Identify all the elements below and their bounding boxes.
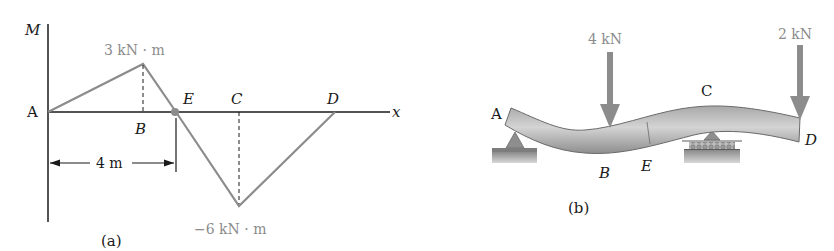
deflected-beam xyxy=(505,106,800,154)
min-moment-label: −6 kN · m xyxy=(194,221,266,237)
load-2-label: 2 kN xyxy=(778,26,812,42)
point-e-label: E xyxy=(182,90,194,108)
load-arrow-4kn-icon xyxy=(600,52,620,128)
caption-a: (a) xyxy=(101,232,122,250)
point-b-label: B xyxy=(134,120,146,138)
beam-point-e-label: E xyxy=(640,157,652,175)
point-a-label: A xyxy=(26,103,38,121)
dimension-arrow-right-icon xyxy=(164,160,174,167)
max-moment-label: 3 kN · m xyxy=(104,42,165,58)
point-c-label: C xyxy=(231,90,243,108)
load-1-label: 4 kN xyxy=(588,31,622,47)
dimension-arrow-left-icon xyxy=(50,160,60,167)
point-d-label: D xyxy=(326,90,339,108)
load-arrow-2kn-icon xyxy=(790,45,810,120)
m-axis-label: M xyxy=(24,21,41,39)
inflection-point-e xyxy=(171,108,179,116)
moment-curve xyxy=(48,64,335,206)
beam-point-d-label: D xyxy=(804,131,817,149)
beam-diagram: 4 kN 2 kN A B E C D (b) xyxy=(490,26,817,217)
dimension-label: 4 m xyxy=(96,155,123,171)
beam-point-a-label: A xyxy=(490,105,502,123)
caption-b: (b) xyxy=(568,199,589,217)
x-axis-label: x xyxy=(392,103,401,121)
beam-point-b-label: B xyxy=(598,164,610,182)
diagram-canvas: 4 m M x A B E C D 3 kN · m −6 kN · m (a) xyxy=(0,0,834,251)
beam-point-c-label: C xyxy=(701,82,712,100)
moment-diagram: 4 m M x A B E C D 3 kN · m −6 kN · m (a) xyxy=(24,21,401,250)
